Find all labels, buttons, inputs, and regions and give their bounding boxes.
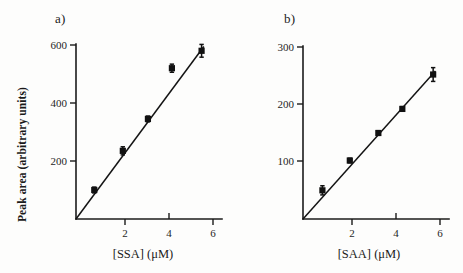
x-ticklabel-b-6: 6 (437, 227, 443, 239)
y-ticklabel-a-600: 600 (51, 39, 68, 51)
data-point-marker (120, 148, 126, 154)
y-ticklabel-a-400: 400 (51, 97, 68, 109)
data-point-marker (169, 65, 175, 71)
data-point-marker (399, 106, 405, 112)
data-point-marker (198, 48, 204, 54)
series-group-a (76, 44, 205, 219)
data-point-marker (347, 157, 353, 163)
y-ticklabel-b-100: 100 (278, 155, 295, 167)
data-point-marker (430, 71, 436, 77)
regression-line (303, 71, 435, 219)
y-ticklabel-b-200: 200 (278, 98, 295, 110)
plot-area-b: 300 200 100 2 4 6 (231, 0, 463, 273)
data-point-marker (319, 187, 325, 193)
x-ticklabel-a-2: 2 (122, 227, 128, 239)
data-point-marker (145, 116, 151, 122)
chart-panel-a: a) Peak area (arbitrary units) [SSA] (μM… (0, 0, 232, 273)
data-point-marker (375, 130, 381, 136)
figure-container: a) Peak area (arbitrary units) [SSA] (μM… (0, 0, 463, 273)
chart-panel-b: b) [SAA] (μM) 300 200 100 2 4 6 (231, 0, 463, 273)
y-ticklabel-b-300: 300 (278, 41, 295, 53)
x-ticklabel-b-4: 4 (393, 227, 399, 239)
data-point-marker (91, 187, 97, 193)
x-ticklabel-b-2: 2 (349, 227, 355, 239)
series-group-b (303, 68, 436, 219)
plot-area-a: 600 400 200 2 4 6 (0, 0, 232, 273)
y-ticklabel-a-200: 200 (51, 155, 68, 167)
x-ticklabel-a-4: 4 (166, 227, 172, 239)
x-ticklabel-a-6: 6 (210, 227, 216, 239)
